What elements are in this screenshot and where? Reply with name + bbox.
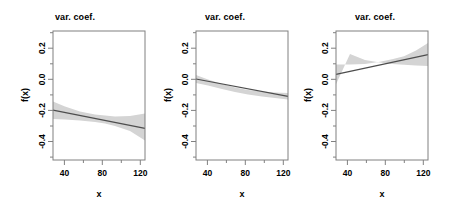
- confidence-band: [336, 43, 428, 84]
- x-axis-ticks: [64, 160, 140, 165]
- x-tick-label: 120: [416, 168, 430, 178]
- plot-box: [53, 31, 145, 160]
- y-tick-label: -0.2: [180, 103, 190, 118]
- confidence-band: [53, 102, 145, 141]
- x-tick-label: 120: [133, 168, 147, 178]
- y-tick-label: 0.2: [320, 42, 330, 54]
- x-axis-title: x: [96, 189, 101, 199]
- x-tick-label: 120: [276, 168, 290, 178]
- x-tick-label: 40: [203, 168, 213, 178]
- y-tick-label: -0.4: [180, 134, 190, 149]
- plot-area-2: 0.2 0.0 -0.2 -0.4 40 80 120 x f(x): [150, 0, 300, 218]
- y-axis-title: f(x): [303, 88, 313, 102]
- y-tick-label: 0.0: [320, 73, 330, 85]
- x-tick-label: 40: [60, 168, 70, 178]
- x-axis-title: x: [379, 189, 384, 199]
- y-tick-label: 0.0: [37, 73, 47, 85]
- x-axis-ticks: [347, 160, 423, 165]
- y-tick-label: 0.2: [180, 42, 190, 54]
- y-tick-label: -0.2: [320, 103, 330, 118]
- plot-area-1: 0.2 0.0 -0.2 -0.4 40 80 120 x f(x): [0, 0, 150, 218]
- y-axis-title: f(x): [163, 88, 173, 102]
- plot-area-3: 0.2 0.0 -0.2 -0.4 40 80 120 x f(x): [300, 0, 450, 218]
- y-axis-title: f(x): [20, 88, 30, 102]
- chart-panel-3: var. coef. 0.2 0.0 -0.2 -0.4: [300, 0, 450, 218]
- estimate-line: [196, 79, 288, 96]
- x-axis-ticks: [207, 160, 283, 165]
- plot-box: [336, 31, 428, 160]
- x-tick-label: 40: [343, 168, 353, 178]
- x-tick-label: 80: [241, 168, 251, 178]
- chart-panel-2: var. coef. 0.2 0.0 -0.2 -0.4: [150, 0, 300, 218]
- y-tick-label: -0.4: [320, 134, 330, 149]
- chart-panel-1: var. coef. 0.2 0.0: [0, 0, 150, 218]
- y-tick-label: -0.2: [37, 103, 47, 118]
- x-tick-label: 80: [98, 168, 108, 178]
- figure-panel-group: var. coef. 0.2 0.0: [0, 0, 450, 218]
- y-tick-label: 0.2: [37, 42, 47, 54]
- x-axis-title: x: [239, 189, 244, 199]
- y-tick-label: -0.4: [37, 134, 47, 149]
- x-tick-label: 80: [381, 168, 391, 178]
- y-tick-label: 0.0: [180, 73, 190, 85]
